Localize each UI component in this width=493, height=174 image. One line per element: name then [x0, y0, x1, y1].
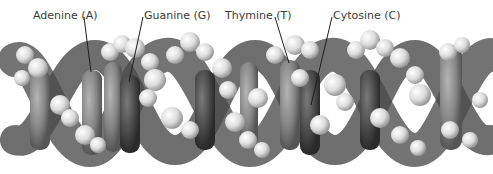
label-cytosine: Cytosine (C) [333, 9, 401, 22]
dna-diagram: Adenine (A) Guanine (G) Thymine (T) Cyto… [0, 0, 493, 174]
label-adenine: Adenine (A) [33, 9, 97, 22]
dna-helix-illustration [0, 0, 493, 174]
label-thymine: Thymine (T) [225, 9, 292, 22]
label-guanine: Guanine (G) [144, 9, 211, 22]
